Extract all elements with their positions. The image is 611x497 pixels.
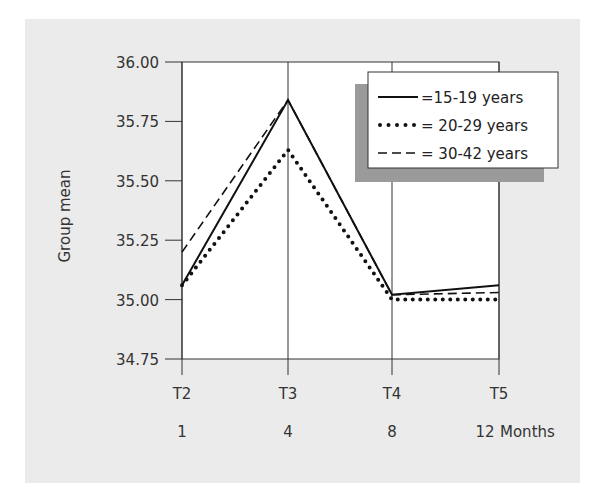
- month-label: 1: [177, 423, 187, 441]
- legend-label: = 20-29 years: [421, 117, 528, 135]
- y-axis-title: Group mean: [56, 170, 74, 263]
- x-tick-label: T5: [489, 385, 509, 403]
- x-tick-label: T4: [382, 385, 402, 403]
- months-suffix: Months: [500, 423, 555, 441]
- legend: =15-19 years= 20-29 years= 30-42 years: [355, 72, 558, 182]
- y-tick-label: 35.00: [116, 292, 159, 310]
- x-tick-label: T2: [172, 385, 192, 403]
- y-tick-label: 34.75: [116, 351, 159, 369]
- x-tick-label: T3: [278, 385, 298, 403]
- month-label: 8: [387, 423, 397, 441]
- y-tick-label: 35.50: [116, 173, 159, 191]
- y-tick-label: 35.75: [116, 113, 159, 131]
- legend-label: = 30-42 years: [421, 145, 528, 163]
- y-tick-label: 36.00: [116, 54, 159, 72]
- legend-label: =15-19 years: [421, 89, 523, 107]
- line-chart: T21T34T48T512Months36.0035.7535.5035.253…: [0, 0, 611, 497]
- month-label: 12: [475, 423, 494, 441]
- month-label: 4: [283, 423, 293, 441]
- y-tick-label: 35.25: [116, 232, 159, 250]
